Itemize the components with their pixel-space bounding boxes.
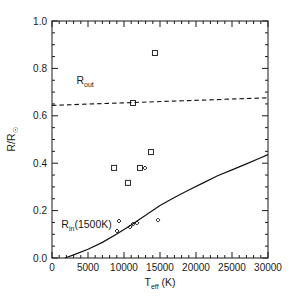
x-tick-label: 15000 [146,262,174,273]
y-tick-label: 0.4 [33,158,47,169]
y-tick-label: 0.0 [33,253,47,264]
r-in-label: Rin(1500K) [61,218,111,232]
y-tick-label: 0.2 [33,205,47,216]
x-tick-label: 5000 [77,262,100,273]
x-tick-label: 10000 [110,262,138,273]
radius-vs-teff-chart: 0500010000150002000025000300000.00.20.40… [0,0,295,304]
x-tick-label: 0 [49,262,55,273]
y-tick-label: 0.8 [33,63,47,74]
x-axis-title: Teff (K) [145,276,176,290]
y-tick-label: 1.0 [33,16,47,27]
y-tick-label: 0.6 [33,110,47,121]
x-tick-label: 20000 [182,262,210,273]
x-tick-label: 30000 [254,262,282,273]
x-tick-label: 25000 [218,262,246,273]
